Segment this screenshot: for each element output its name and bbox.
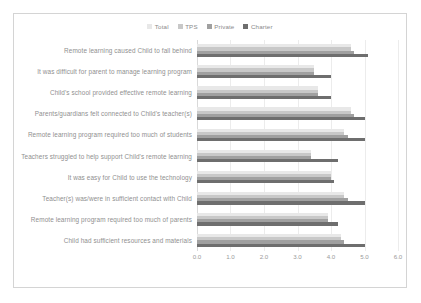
bar-charter[interactable] — [197, 117, 365, 120]
x-tick-label: 1.0 — [226, 253, 235, 260]
category-label: Remote learning caused Child to fall beh… — [14, 40, 197, 61]
bar-group — [197, 145, 398, 166]
bars-area — [197, 40, 398, 251]
category-label: It was easy for Child to use the technol… — [14, 167, 197, 188]
bar-group — [197, 61, 398, 82]
bar-groups — [197, 40, 398, 251]
legend-entry-total[interactable]: Total — [147, 23, 168, 30]
legend-label: TPS — [185, 23, 197, 30]
x-tick-label: 4.0 — [327, 253, 336, 260]
category-label: Remote learning program required too muc… — [14, 209, 197, 230]
bar-charter[interactable] — [197, 138, 365, 141]
chart-frame: TotalTPSPrivateCharter Remote learning c… — [13, 13, 407, 288]
category-label: Child had sufficient resources and mater… — [14, 230, 197, 251]
bar-group — [197, 124, 398, 145]
legend-label: Private — [214, 23, 234, 30]
x-tick-label: 5.0 — [360, 253, 369, 260]
plot-area: Remote learning caused Child to fall beh… — [14, 40, 406, 287]
category-label: Parents/guardians felt connected to Chil… — [14, 103, 197, 124]
x-tick-label: 6.0 — [394, 253, 403, 260]
legend-label: Total — [155, 23, 169, 30]
x-tick-label: 2.0 — [260, 253, 269, 260]
bar-group — [197, 82, 398, 103]
category-label: It was difficult for parent to manage le… — [14, 61, 197, 82]
value-axis-labels: 0.01.02.03.04.05.06.0 — [197, 253, 398, 265]
legend-swatch-icon — [147, 24, 152, 29]
bar-charter[interactable] — [197, 159, 338, 162]
category-label: Teachers struggled to help support Child… — [14, 145, 197, 166]
bar-charter[interactable] — [197, 96, 331, 99]
gridline — [398, 40, 399, 251]
bar-charter[interactable] — [197, 222, 338, 225]
chart-legend: TotalTPSPrivateCharter — [14, 23, 406, 30]
legend-swatch-icon — [243, 24, 248, 29]
bar-group — [197, 167, 398, 188]
bar-charter[interactable] — [197, 201, 365, 204]
bar-charter[interactable] — [197, 180, 334, 183]
bar-group — [197, 103, 398, 124]
legend-label: Charter — [251, 23, 273, 30]
category-label: Teacher(s) was/were in sufficient contac… — [14, 188, 197, 209]
bar-charter[interactable] — [197, 54, 368, 57]
bar-group — [197, 209, 398, 230]
bar-charter[interactable] — [197, 75, 331, 78]
legend-entry-charter[interactable]: Charter — [243, 23, 272, 30]
category-label: Remote learning program required too muc… — [14, 124, 197, 145]
category-label: Child's school provided effective remote… — [14, 82, 197, 103]
bar-group — [197, 230, 398, 251]
legend-entry-tps[interactable]: TPS — [178, 23, 198, 30]
legend-entry-private[interactable]: Private — [207, 23, 235, 30]
bar-charter[interactable] — [197, 244, 365, 247]
bar-group — [197, 40, 398, 61]
x-tick-label: 3.0 — [293, 253, 302, 260]
bar-group — [197, 188, 398, 209]
category-axis-labels: Remote learning caused Child to fall beh… — [14, 40, 197, 251]
legend-swatch-icon — [207, 24, 212, 29]
x-tick-label: 0.0 — [193, 253, 202, 260]
legend-swatch-icon — [178, 24, 183, 29]
